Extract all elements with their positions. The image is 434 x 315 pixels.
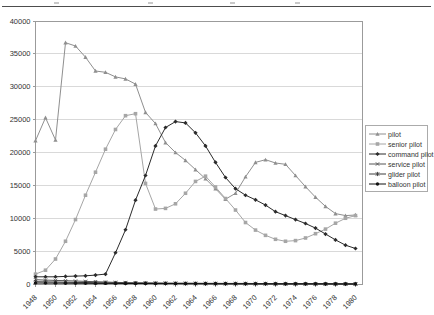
data-point-marker (64, 282, 67, 285)
data-point-marker (84, 282, 87, 285)
x-tick-label: 1958 (121, 293, 139, 311)
data-point-marker (93, 273, 97, 277)
data-point-marker (283, 214, 287, 218)
legend-label: balloon pilot (388, 181, 425, 188)
legend-label: pilot (388, 131, 401, 138)
data-point-marker (344, 282, 347, 285)
x-tick-label: 1978 (321, 293, 339, 311)
chart-legend: pilotsenior pilotcommand pilotservice pi… (365, 125, 428, 192)
data-point-marker (53, 138, 57, 142)
x-tick-label: 1980 (341, 293, 359, 311)
data-point-marker (74, 218, 78, 222)
y-tick-label: 35000 (10, 49, 31, 58)
cropped-heading (0, 0, 434, 7)
data-point-marker (234, 282, 237, 285)
x-tick-label: 1960 (141, 293, 159, 311)
data-point-marker (153, 144, 157, 148)
data-point-marker (194, 180, 198, 184)
x-tick-label: 1962 (161, 293, 179, 311)
asterisk-marker-icon (369, 170, 386, 178)
data-point-marker (33, 139, 37, 143)
cropped-heading-remnant (295, 2, 300, 4)
data-point-marker (63, 41, 67, 45)
data-point-marker (294, 239, 298, 243)
data-point-marker (54, 281, 57, 284)
x-tick-label: 1956 (101, 293, 119, 311)
x-tick-label: 1952 (61, 293, 79, 311)
triangle-marker-icon (369, 130, 386, 138)
legend-item-service-pilot: service pilot (369, 159, 425, 169)
y-tick-label: 30000 (10, 82, 31, 91)
data-point-marker (244, 221, 248, 225)
x-tick-label: 1976 (301, 293, 319, 311)
data-point-marker (44, 268, 48, 272)
data-point-marker (104, 147, 108, 151)
data-point-marker (184, 191, 188, 195)
chart-page: 0500010000150002000025000300003500040000… (0, 0, 434, 315)
y-tick-label: 15000 (10, 181, 31, 190)
data-point-marker (103, 272, 107, 276)
data-point-marker (133, 198, 137, 202)
data-point-marker (134, 282, 137, 285)
data-point-marker (84, 193, 88, 197)
data-point-marker (334, 221, 338, 225)
data-point-marker (214, 185, 218, 189)
y-tick-label: 40000 (10, 17, 31, 26)
data-point-marker (174, 282, 177, 285)
data-point-marker (83, 274, 87, 278)
data-point-marker (164, 207, 168, 211)
x-tick-label: 1948 (21, 293, 39, 311)
x-tick-label: 1950 (41, 293, 59, 311)
data-point-marker (63, 274, 67, 278)
data-point-marker (304, 236, 308, 240)
data-point-marker (354, 282, 357, 285)
legend-item-command-pilot: command pilot (369, 149, 425, 159)
data-point-marker (324, 227, 328, 231)
x-tick-label: 1968 (221, 293, 239, 311)
series-command-pilot (33, 119, 357, 278)
data-point-marker (144, 282, 147, 285)
data-point-marker (244, 282, 247, 285)
data-point-marker (43, 116, 47, 120)
data-point-marker (254, 228, 258, 232)
circle-marker-icon (369, 180, 386, 188)
series-line (36, 114, 356, 274)
y-tick-label: 5000 (14, 247, 31, 256)
square-marker-icon (369, 140, 386, 148)
data-point-marker (53, 275, 57, 279)
cropped-heading-remnant (230, 2, 235, 4)
legend-marker (375, 152, 379, 156)
data-point-marker (263, 158, 267, 162)
data-point-marker (274, 282, 277, 285)
x-tick-label: 1964 (181, 293, 199, 311)
legend-label: command pilot (388, 151, 434, 158)
data-point-marker (344, 216, 348, 220)
x-tick-label: 1974 (281, 293, 299, 311)
data-point-marker (343, 243, 347, 247)
data-point-marker (264, 282, 267, 285)
y-tick-label: 0 (26, 280, 30, 289)
legend-label: senior pilot (388, 141, 422, 148)
data-point-marker (264, 234, 268, 238)
data-point-marker (184, 282, 187, 285)
data-point-marker (284, 282, 287, 285)
data-point-marker (224, 197, 228, 201)
legend-item-balloon-pilot: balloon pilot (369, 179, 425, 189)
data-point-marker (274, 238, 278, 242)
data-point-marker (204, 282, 207, 285)
y-tick-label: 10000 (10, 214, 31, 223)
data-point-marker (234, 208, 238, 212)
data-point-marker (354, 214, 358, 218)
cropped-heading-remnant (148, 2, 153, 4)
gridlines (36, 54, 363, 251)
data-point-marker (144, 182, 148, 186)
series-line (36, 43, 356, 216)
x-marker-icon (369, 160, 386, 168)
data-point-marker (253, 198, 257, 202)
data-point-marker (114, 128, 118, 132)
data-point-marker (44, 281, 47, 284)
y-tick-label: 20000 (10, 148, 31, 157)
data-point-marker (104, 282, 107, 285)
legend-item-pilot: pilot (369, 129, 425, 139)
heading-rule (2, 6, 431, 7)
